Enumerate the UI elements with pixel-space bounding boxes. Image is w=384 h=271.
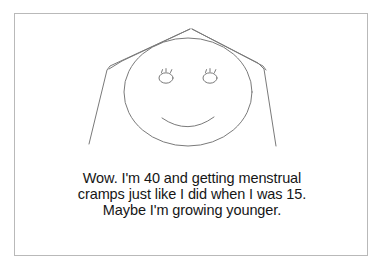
caption-line-1: Wow. I'm 40 and getting menstrual (30, 170, 354, 186)
caption-line-2: cramps just like I did when I was 15. (30, 186, 354, 202)
mouth-smile (162, 117, 214, 127)
face-oval (124, 38, 252, 146)
cartoon-panel: Wow. I'm 40 and getting menstrual cramps… (0, 0, 384, 271)
caption: Wow. I'm 40 and getting menstrual cramps… (30, 170, 354, 219)
caption-line-3: Maybe I'm growing younger. (30, 202, 354, 218)
line-drawing-woman-face (14, 13, 368, 256)
right-eye (203, 69, 217, 84)
hair-outline (89, 29, 276, 146)
left-eye (159, 69, 173, 84)
